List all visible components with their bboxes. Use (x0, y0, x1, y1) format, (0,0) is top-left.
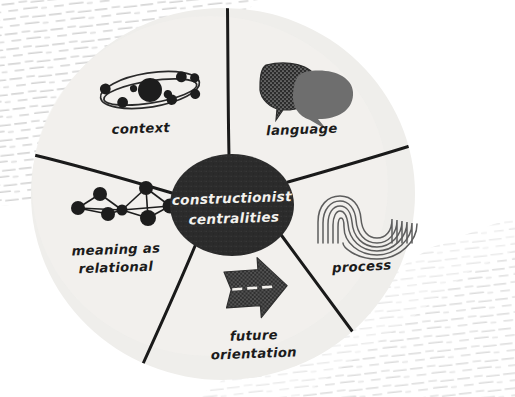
segment-label-future-line2: orientation (211, 345, 298, 363)
hub-label-line2: centralities (188, 208, 279, 227)
segment-label-meaning-line1: meaning as (71, 240, 160, 258)
segment-label-process: process (331, 257, 392, 275)
segment-label-future-line1: future (230, 327, 279, 344)
segment-label-context: context (111, 120, 170, 137)
hub[interactable]: constructionist centralities (170, 154, 294, 256)
constructionist-centralities-diagram: context language process (0, 0, 515, 397)
diagram-canvas: context language process (0, 0, 515, 397)
segment-label-language: language (266, 121, 338, 138)
spoke-top (228, 7, 230, 156)
segment-label-meaning-line2: relational (78, 259, 153, 277)
